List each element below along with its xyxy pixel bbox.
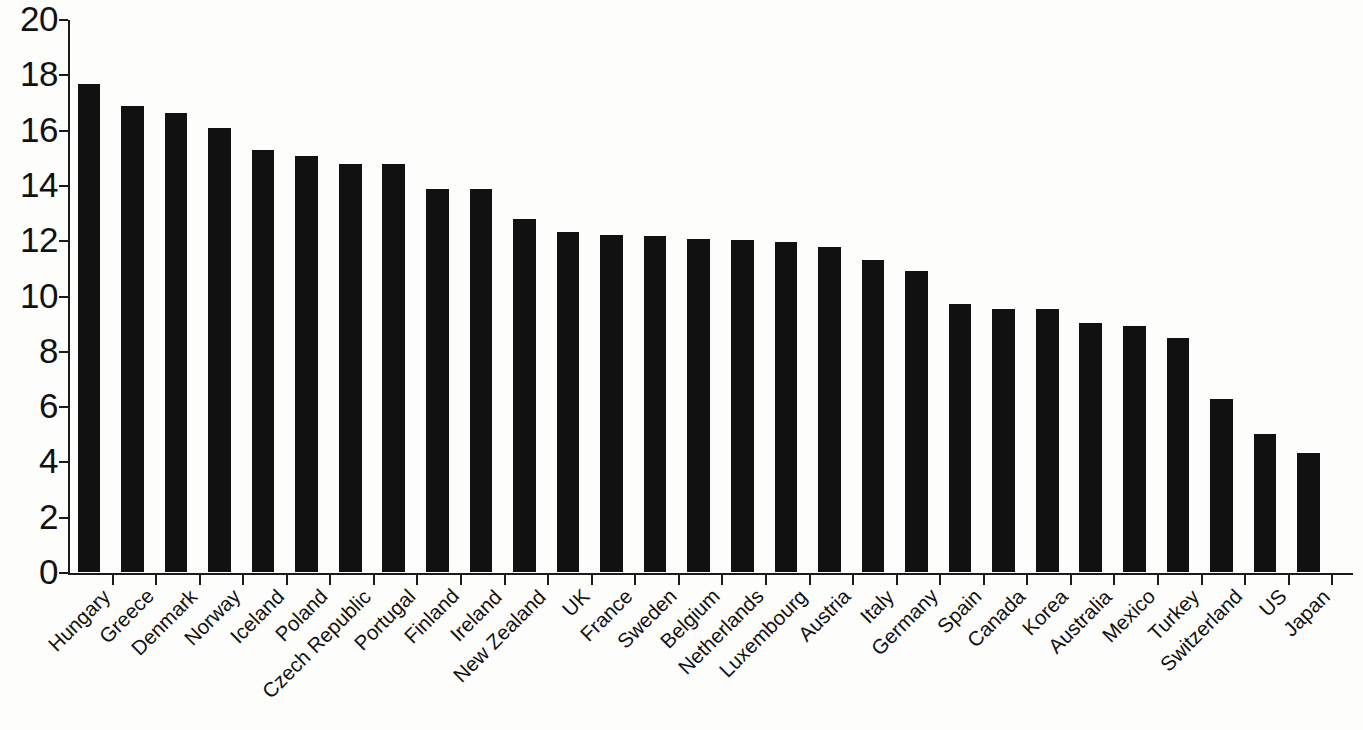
y-axis-tick <box>59 74 68 76</box>
bar <box>1123 326 1146 572</box>
bar <box>1254 434 1277 572</box>
y-axis-tick-label: 4 <box>0 443 58 478</box>
y-axis-tick-label: 0 <box>0 554 58 589</box>
bar <box>600 235 623 572</box>
y-axis-tick <box>59 185 68 187</box>
bar <box>339 164 362 572</box>
bar <box>1167 338 1190 572</box>
bar <box>1297 453 1320 572</box>
y-axis-tick-label: 14 <box>0 167 58 202</box>
y-axis-tick <box>59 517 68 519</box>
bar <box>1036 309 1059 572</box>
y-axis-tick-label: 12 <box>0 222 58 257</box>
y-axis-tick-label: 6 <box>0 388 58 423</box>
bar <box>731 240 754 572</box>
plot-area: 02468101214161820 <box>68 20 1353 573</box>
y-axis-tick-label: 18 <box>0 56 58 91</box>
bar <box>513 219 536 572</box>
y-axis-tick-label: 10 <box>0 278 58 313</box>
y-axis-tick-label: 20 <box>0 1 58 36</box>
chart-page: 02468101214161820 HungaryGreeceDenmarkNo… <box>0 0 1363 730</box>
y-axis-tick <box>59 406 68 408</box>
bar <box>687 239 710 572</box>
bar <box>470 189 493 572</box>
bar <box>818 247 841 572</box>
bar <box>644 236 667 572</box>
bar <box>1210 399 1233 572</box>
y-axis-tick <box>59 296 68 298</box>
bar <box>862 260 885 572</box>
y-axis-tick <box>59 461 68 463</box>
bar <box>949 304 972 572</box>
y-axis-tick <box>59 240 68 242</box>
bar <box>208 128 231 572</box>
bar <box>121 106 144 572</box>
x-axis-category-label: Japan <box>1279 585 1334 640</box>
y-axis-tick-label: 2 <box>0 499 58 534</box>
bar <box>775 242 798 572</box>
bar <box>78 84 101 572</box>
y-axis-tick-label: 8 <box>0 333 58 368</box>
bar <box>1079 323 1102 572</box>
bar <box>905 271 928 572</box>
bar <box>557 232 580 572</box>
x-axis-category-label: US <box>1255 585 1291 621</box>
y-axis-tick <box>59 130 68 132</box>
y-axis-tick <box>59 572 68 574</box>
bar <box>295 156 318 572</box>
bar <box>426 189 449 572</box>
bar <box>165 113 188 572</box>
bar <box>382 164 405 572</box>
x-axis-category-labels: HungaryGreeceDenmarkNorwayIcelandPolandC… <box>68 573 1363 730</box>
bar <box>992 309 1015 572</box>
y-axis-tick <box>59 19 68 21</box>
y-axis-tick <box>59 351 68 353</box>
bar <box>252 150 275 572</box>
y-axis-tick-label: 16 <box>0 112 58 147</box>
y-axis-line <box>68 20 70 574</box>
